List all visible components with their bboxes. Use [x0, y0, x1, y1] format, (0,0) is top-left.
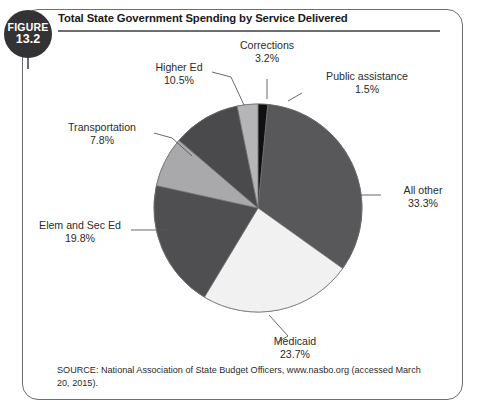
pie-label-medicaid-name: Medicaid — [274, 335, 316, 347]
pie-label-medicaid-value: 23.7% — [247, 348, 343, 361]
pie-label-higher-ed-value: 10.5% — [130, 74, 228, 87]
title-divider-rule — [58, 30, 440, 32]
pie-label-transportation-value: 7.8% — [50, 134, 154, 147]
source-note: SOURCE: National Association of State Bu… — [57, 364, 429, 390]
pie-label-corrections: Corrections 3.2% — [218, 39, 316, 65]
pie-label-corrections-value: 3.2% — [218, 52, 316, 65]
pie-label-higher-ed: Higher Ed 10.5% — [130, 61, 228, 87]
leader-line-public-assistance — [288, 93, 302, 101]
figure-badge-stem — [27, 57, 29, 69]
pie-label-public-assistance: Public assistance 1.5% — [307, 70, 427, 96]
pie-label-public-assistance-value: 1.5% — [307, 83, 427, 96]
pie-label-elem-sec-ed: Elem and Sec Ed 19.8% — [30, 219, 130, 245]
pie-label-all-other-value: 33.3% — [386, 197, 460, 210]
pie-label-all-other: All other 33.3% — [386, 184, 460, 210]
pie-label-medicaid: Medicaid 23.7% — [247, 335, 343, 361]
pie-label-transportation: Transportation 7.8% — [50, 121, 154, 147]
pie-label-corrections-name: Corrections — [240, 39, 294, 51]
pie-label-higher-ed-name: Higher Ed — [155, 61, 202, 73]
pie-label-all-other-name: All other — [404, 184, 443, 196]
pie-label-transportation-name: Transportation — [68, 121, 136, 133]
pie-label-public-assistance-name: Public assistance — [326, 70, 408, 82]
pie-slice-group — [154, 104, 362, 312]
pie-label-elem-sec-ed-value: 19.8% — [30, 232, 130, 245]
figure-number-badge: FIGURE 13.2 — [4, 10, 52, 58]
figure-badge-number: 13.2 — [16, 33, 40, 46]
pie-chart: Higher Ed 10.5% Corrections 3.2% Public … — [22, 9, 463, 400]
pie-label-elem-sec-ed-name: Elem and Sec Ed — [39, 219, 121, 231]
